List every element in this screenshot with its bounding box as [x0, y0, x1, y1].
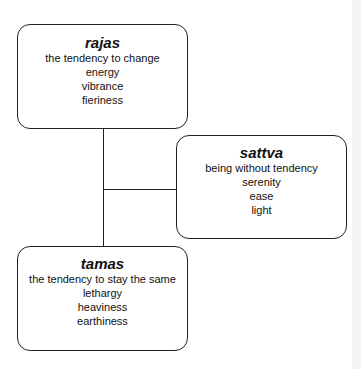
node-attribute: fieriness: [18, 93, 187, 107]
node-sattva: sattva being without tendency serenity e…: [176, 135, 347, 239]
connector-to-sattva: [103, 189, 177, 191]
right-edge-strip: [352, 0, 361, 369]
node-attribute: heaviness: [18, 300, 187, 314]
connector-rajas-tamas: [103, 128, 105, 247]
node-attribute: ease: [177, 189, 346, 203]
node-title: sattva: [177, 145, 346, 161]
node-rajas: rajas the tendency to change energy vibr…: [17, 24, 188, 129]
node-title: rajas: [18, 35, 187, 51]
node-description: the tendency to stay the same: [18, 272, 187, 286]
node-attribute: earthiness: [18, 314, 187, 328]
node-description: being without tendency: [177, 161, 346, 175]
node-attribute: light: [177, 203, 346, 217]
node-attribute: energy: [18, 65, 187, 79]
node-attribute: vibrance: [18, 79, 187, 93]
node-title: tamas: [18, 256, 187, 272]
node-attribute: lethargy: [18, 286, 187, 300]
node-attribute: serenity: [177, 175, 346, 189]
node-description: the tendency to change: [18, 51, 187, 65]
node-tamas: tamas the tendency to stay the same leth…: [17, 246, 188, 351]
